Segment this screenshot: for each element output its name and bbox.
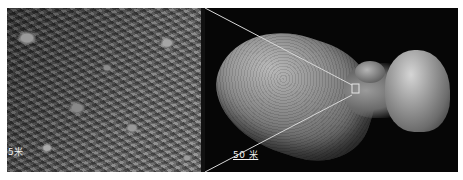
left-scale-label: 5米 <box>8 147 24 157</box>
asteroid-bump <box>355 61 385 83</box>
right-scale-label: 50 米 <box>233 150 258 160</box>
asteroid-head <box>385 50 450 132</box>
figure-frame <box>7 8 458 172</box>
closeup-surface-image <box>7 8 205 172</box>
asteroid-overview-image <box>205 8 458 172</box>
